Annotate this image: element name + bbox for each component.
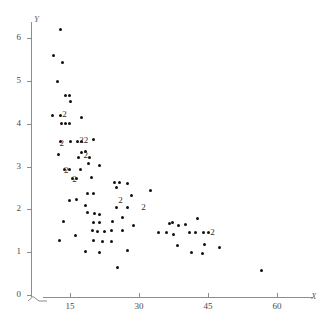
data-point — [57, 153, 60, 156]
data-point — [51, 114, 54, 117]
y-axis-tick — [27, 167, 32, 168]
data-point — [84, 250, 87, 253]
overlap-count-label: 2 — [118, 195, 123, 204]
x-axis-tick-label: 15 — [60, 301, 80, 311]
data-point — [184, 223, 187, 226]
data-point — [74, 234, 77, 237]
x-axis-tick — [70, 293, 71, 298]
overlap-count-label: 22 — [79, 135, 88, 144]
data-point — [68, 94, 71, 97]
data-point — [176, 244, 179, 247]
data-point — [171, 221, 174, 224]
overlap-count-label: 2 — [64, 165, 69, 174]
data-point — [103, 230, 106, 233]
data-point — [93, 212, 96, 215]
data-point — [87, 162, 90, 165]
data-point — [90, 176, 93, 179]
data-point — [86, 192, 89, 195]
data-point — [75, 198, 78, 201]
data-point — [60, 122, 63, 125]
data-point — [79, 168, 82, 171]
data-point — [96, 230, 99, 233]
data-point — [165, 231, 168, 234]
data-point — [98, 251, 101, 254]
data-point — [116, 266, 119, 269]
y-axis-tick — [27, 295, 32, 296]
data-point — [98, 213, 101, 216]
x-axis-tick-label: 60 — [267, 301, 287, 311]
scatter-plot: Y X 0123456153045602222222222 — [0, 0, 332, 324]
data-point — [149, 189, 152, 192]
data-point — [111, 220, 114, 223]
overlap-count-label: 2 — [59, 138, 64, 147]
data-point — [126, 206, 129, 209]
data-point — [69, 140, 72, 143]
data-point — [110, 229, 113, 232]
data-point — [101, 240, 104, 243]
data-point — [68, 122, 71, 125]
data-point — [202, 231, 205, 234]
data-point — [92, 192, 95, 195]
data-point — [77, 156, 80, 159]
data-point — [56, 80, 59, 83]
data-point — [121, 229, 124, 232]
data-point — [126, 182, 129, 185]
data-point — [126, 249, 129, 252]
data-point — [80, 116, 83, 119]
data-point — [157, 231, 160, 234]
x-axis-tick — [139, 293, 140, 298]
data-point — [92, 138, 95, 141]
data-point — [218, 246, 221, 249]
y-axis-tick — [27, 209, 32, 210]
data-point — [121, 216, 124, 219]
y-axis-tick — [27, 81, 32, 82]
data-point — [172, 233, 175, 236]
data-point — [118, 181, 121, 184]
data-point — [64, 122, 67, 125]
data-point — [80, 151, 83, 154]
data-point — [177, 224, 180, 227]
data-point — [62, 220, 65, 223]
overlap-count-label: 2 — [72, 175, 77, 184]
data-point — [64, 94, 67, 97]
y-axis-tick — [27, 124, 32, 125]
data-point — [115, 186, 118, 189]
y-axis-tick-label: 6 — [7, 32, 21, 42]
x-axis-tick — [208, 293, 209, 298]
y-axis-tick — [27, 38, 32, 39]
y-axis-tick-label: 4 — [7, 118, 21, 128]
data-point — [98, 221, 101, 224]
data-point — [69, 100, 72, 103]
data-point — [203, 243, 206, 246]
data-point — [92, 221, 95, 224]
overlap-count-label: 2 — [210, 227, 215, 236]
plot-area: 0123456153045602222222222 — [0, 0, 332, 324]
data-point — [61, 61, 64, 64]
data-point — [130, 194, 133, 197]
data-point — [194, 231, 197, 234]
data-point — [91, 229, 94, 232]
y-axis-tick-label: 5 — [7, 75, 21, 85]
data-point — [86, 211, 89, 214]
data-point — [201, 252, 204, 255]
y-axis-tick-label: 0 — [7, 289, 21, 299]
data-point — [196, 217, 199, 220]
data-point — [190, 251, 193, 254]
data-point — [260, 269, 263, 272]
y-axis-tick — [27, 252, 32, 253]
y-axis-tick-label: 2 — [7, 203, 21, 213]
data-point — [188, 231, 191, 234]
y-axis-tick-label: 1 — [7, 246, 21, 256]
data-point — [59, 28, 62, 31]
data-point — [88, 156, 91, 159]
data-point — [58, 239, 61, 242]
data-point — [113, 181, 116, 184]
x-axis-tick — [277, 293, 278, 298]
overlap-count-label: 2 — [141, 203, 146, 212]
data-point — [98, 164, 101, 167]
data-point — [132, 224, 135, 227]
data-point — [115, 206, 118, 209]
overlap-count-label: 2 — [83, 150, 88, 159]
overlap-count-label: 2 — [62, 110, 67, 119]
data-point — [110, 240, 113, 243]
